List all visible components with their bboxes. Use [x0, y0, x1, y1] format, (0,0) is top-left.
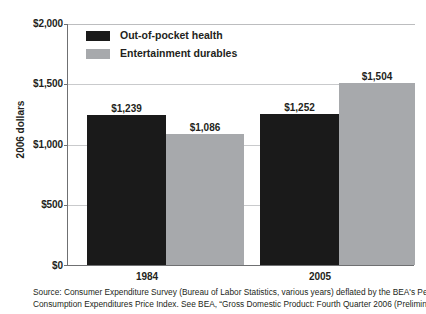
y-tick-1000	[64, 145, 68, 146]
value-label-1984-out-of-pocket-health: $1,239	[87, 103, 166, 114]
y-tick-1500	[64, 84, 68, 85]
y-tick-label-2000: $2,000	[5, 19, 63, 29]
gridline-2000	[68, 24, 415, 25]
legend-item-out-of-pocket-health[interactable]: Out-of-pocket health	[86, 28, 237, 43]
value-label-2005-out-of-pocket-health: $1,252	[260, 102, 339, 113]
y-tick-label-500: $500	[5, 200, 63, 210]
y-tick-0	[64, 265, 68, 266]
value-label-1984-entertainment-durables: $1,086	[166, 122, 244, 133]
legend-swatch-icon-entertainment-durables	[86, 49, 110, 59]
y-axis-title: 2006 dollars	[15, 75, 26, 185]
source-note: Source: Consumer Expenditure Survey (Bur…	[33, 287, 423, 310]
bar-chart-figure: $2,000 $1,500 $1,000 $500 $0 2006 dollar…	[0, 0, 426, 314]
x-category-label-2005: 2005	[280, 271, 360, 282]
legend-item-entertainment-durables[interactable]: Entertainment durables	[86, 46, 237, 61]
y-tick-500	[64, 205, 68, 206]
bar-2005-entertainment-durables[interactable]	[339, 83, 415, 265]
legend-label-entertainment-durables: Entertainment durables	[120, 48, 237, 59]
bar-1984-entertainment-durables[interactable]	[166, 134, 244, 265]
y-axis-tick-labels: $2,000 $1,500 $1,000 $500 $0	[0, 0, 63, 314]
legend-label-out-of-pocket-health: Out-of-pocket health	[120, 30, 223, 41]
x-category-label-1984: 1984	[107, 271, 187, 282]
legend-swatch-icon-out-of-pocket-health	[86, 31, 110, 41]
y-tick-label-0: $0	[5, 261, 63, 271]
source-note-line-1: Source: Consumer Expenditure Survey (Bur…	[33, 287, 423, 299]
source-note-line-2: Consumption Expenditures Price Index. Se…	[33, 299, 423, 311]
y-tick-2000	[64, 24, 68, 25]
value-label-2005-entertainment-durables: $1,504	[339, 71, 415, 82]
bar-1984-out-of-pocket-health[interactable]	[87, 115, 166, 265]
bar-2005-out-of-pocket-health[interactable]	[260, 114, 339, 265]
chart-legend: Out-of-pocket health Entertainment durab…	[86, 28, 237, 64]
